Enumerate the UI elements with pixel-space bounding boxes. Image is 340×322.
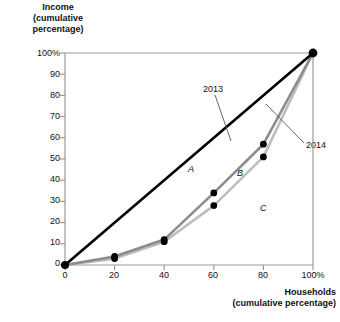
data-point-2013-20	[111, 253, 118, 260]
data-point-2013-40	[161, 236, 168, 243]
data-point-2013-60	[210, 190, 217, 197]
data-point-origin	[61, 261, 69, 269]
data-points-2014	[111, 154, 267, 263]
chart-plot-svg	[0, 0, 340, 322]
data-point-2013-80	[260, 141, 267, 148]
data-point-top-right	[309, 49, 318, 58]
data-point-2014-60	[210, 202, 217, 209]
y-axis-ticks	[60, 53, 65, 265]
data-point-2014-80	[260, 154, 267, 161]
x-axis-ticks	[65, 265, 313, 270]
lorenz-curve-chart: Income (cumulative percentage) Household…	[0, 0, 340, 322]
series-line-equality	[65, 53, 313, 265]
